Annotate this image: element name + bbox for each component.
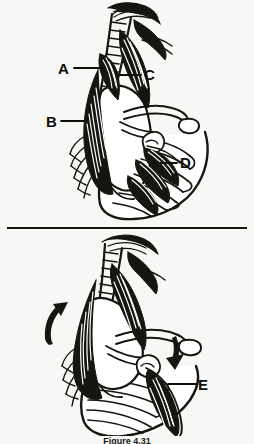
label-a: A bbox=[58, 61, 69, 76]
figure-caption: Figure 4.31 bbox=[0, 436, 254, 444]
lower-panel-illustration bbox=[0, 230, 254, 436]
upper-anatomy-panel bbox=[0, 0, 254, 222]
label-e: E bbox=[198, 377, 208, 392]
label-b: B bbox=[46, 114, 57, 129]
lower-anatomy-panel bbox=[0, 230, 254, 436]
figure-page: A C B D bbox=[0, 0, 254, 444]
label-c: C bbox=[144, 67, 155, 82]
panel-divider bbox=[7, 227, 247, 229]
upper-panel-illustration bbox=[0, 0, 254, 222]
label-d: D bbox=[180, 155, 191, 170]
motion-arrow-up bbox=[45, 302, 68, 345]
